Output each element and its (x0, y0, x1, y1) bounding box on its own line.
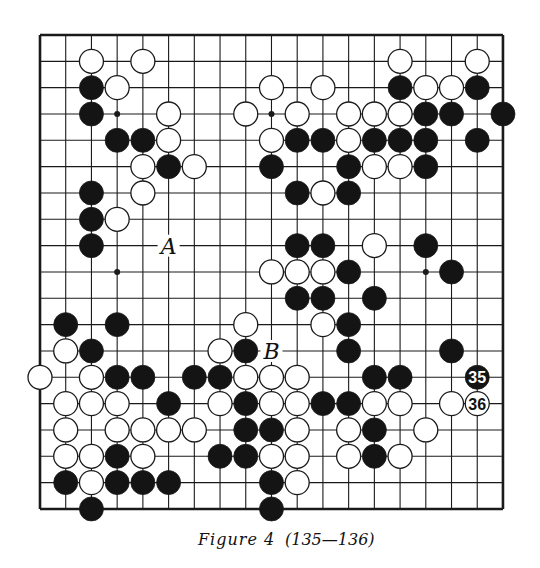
black-stone (105, 444, 129, 468)
white-stone (311, 260, 335, 284)
white-stone (157, 102, 181, 126)
black-stone (234, 444, 258, 468)
white-stone (285, 102, 309, 126)
white-stone (79, 444, 103, 468)
white-stone (337, 444, 361, 468)
black-stone (208, 365, 232, 389)
white-stone (131, 155, 155, 179)
go-board: AB 3536 (0, 0, 540, 530)
black-stone (362, 128, 386, 152)
white-stone (157, 418, 181, 442)
point-label-a: A (159, 234, 177, 259)
white-stone (131, 181, 155, 205)
black-stone (131, 365, 155, 389)
white-stone (54, 339, 78, 363)
star-point (114, 269, 120, 275)
white-stone (388, 444, 412, 468)
white-stone (465, 49, 489, 73)
white-stone (311, 76, 335, 100)
black-stone (285, 286, 309, 310)
black-stone (285, 128, 309, 152)
black-stone (157, 392, 181, 416)
white-stone (388, 155, 412, 179)
white-stone (182, 155, 206, 179)
black-stone (79, 181, 103, 205)
black-stone (440, 339, 464, 363)
white-stone (79, 392, 103, 416)
black-stone (362, 365, 386, 389)
white-stone (337, 128, 361, 152)
black-stone (465, 76, 489, 100)
white-stone (362, 234, 386, 258)
white-stone: 36 (465, 392, 489, 416)
move-number: 36 (468, 396, 486, 413)
white-stone (388, 102, 412, 126)
black-stone (337, 392, 361, 416)
white-stone (131, 49, 155, 73)
black-stone (491, 102, 515, 126)
white-stone (259, 444, 283, 468)
black-stone (414, 128, 438, 152)
black-stone (131, 128, 155, 152)
white-stone (285, 365, 309, 389)
white-stone (54, 392, 78, 416)
star-point (423, 269, 429, 275)
star-point (114, 111, 120, 117)
black-stone (105, 365, 129, 389)
white-stone (440, 76, 464, 100)
black-stone (259, 471, 283, 495)
black-stone (388, 76, 412, 100)
white-stone (234, 102, 258, 126)
black-stone (362, 286, 386, 310)
black-stone (79, 207, 103, 231)
black-stone (414, 234, 438, 258)
black-stone (157, 155, 181, 179)
black-stone (440, 260, 464, 284)
white-stone (311, 313, 335, 337)
black-stone (337, 313, 361, 337)
white-stone (414, 418, 438, 442)
black-stone (208, 444, 232, 468)
white-stone (285, 260, 309, 284)
black-stone (362, 418, 386, 442)
black-stone (311, 286, 335, 310)
white-stone (337, 418, 361, 442)
white-stone (234, 365, 258, 389)
black-stone (79, 234, 103, 258)
white-stone (285, 418, 309, 442)
white-stone (105, 76, 129, 100)
star-point (268, 111, 274, 117)
white-stone (388, 392, 412, 416)
point-label-b: B (262, 339, 279, 364)
white-stone (79, 365, 103, 389)
black-stone (259, 155, 283, 179)
white-stone (311, 181, 335, 205)
white-stone (388, 49, 412, 73)
white-stone (79, 49, 103, 73)
black-stone (234, 339, 258, 363)
black-stone (285, 234, 309, 258)
black-stone (337, 181, 361, 205)
black-stone (259, 418, 283, 442)
black-stone (105, 313, 129, 337)
white-stone (362, 155, 386, 179)
white-stone (79, 471, 103, 495)
black-stone (54, 471, 78, 495)
black-stone (182, 365, 206, 389)
white-stone (208, 339, 232, 363)
white-stone (131, 418, 155, 442)
move-number: 35 (468, 369, 486, 386)
black-stone (388, 365, 412, 389)
figure-label: Figure 4 (198, 530, 275, 549)
black-stone (337, 339, 361, 363)
black-stone (311, 234, 335, 258)
black-stone (362, 444, 386, 468)
white-stone (54, 444, 78, 468)
black-stone (388, 128, 412, 152)
black-stone: 35 (465, 365, 489, 389)
black-stone (54, 313, 78, 337)
black-stone (234, 392, 258, 416)
white-stone (259, 128, 283, 152)
black-stone (311, 392, 335, 416)
white-stone (157, 128, 181, 152)
